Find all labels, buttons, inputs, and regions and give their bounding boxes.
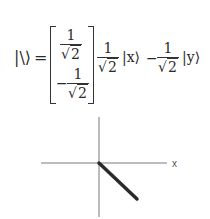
state-vector bbox=[99, 163, 137, 199]
x-axis-label: x bbox=[172, 158, 177, 169]
vector-diagram: x bbox=[0, 0, 210, 219]
